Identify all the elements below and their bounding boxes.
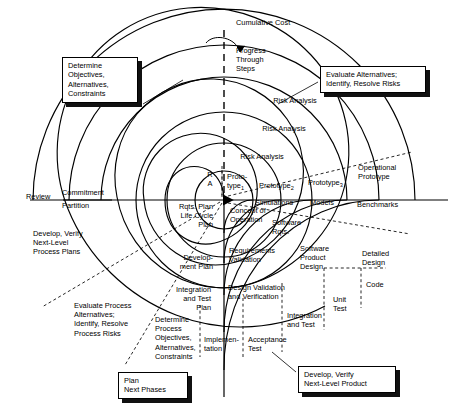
label-prototype-1-sub: 1: [241, 185, 244, 191]
label-evaluate-process-alternatives: Evaluate Process Alternatives; Identify,…: [74, 301, 158, 338]
label-detailed-design: Detailed Design: [362, 249, 412, 267]
label-operational-prototype: Operational Prototype: [358, 163, 420, 181]
label-rqts-plan: Rqts. Plan Life Cycle Plan: [143, 202, 213, 230]
axis-label-partition: Partition: [62, 201, 89, 210]
label-models: Models: [310, 198, 356, 207]
label-integration-and-test: Integration and Test: [287, 311, 337, 329]
label-prototype-3-sub: 3: [340, 182, 343, 188]
label-software-product-design: Software Product Design: [300, 244, 350, 272]
label-develop-verify-process-plans: Develop, Verify Next-Level Process Plans: [33, 229, 123, 257]
axis-label-commitment: Commitment: [62, 188, 104, 197]
label-acceptance-test: Acceptance Test: [248, 335, 298, 353]
label-code: Code: [366, 280, 400, 289]
label-development-plan: Develop- ment Plan: [143, 253, 213, 271]
callout-text: Develop, Verify Next-Level Product: [298, 366, 396, 393]
callout-text: Plan Next Phases: [118, 372, 188, 399]
label-prototype-3-text: Prototype: [308, 178, 340, 187]
label-unit-test: Unit Test: [333, 295, 363, 313]
label-design-validation: Design Validation and Verification: [228, 283, 314, 301]
label-prototype-2-text: Prototype: [259, 181, 291, 190]
label-benchmarks: Benchmarks: [357, 200, 417, 209]
callout-text: Evaluate Alternatives; Identify, Resolve…: [320, 66, 426, 93]
label-risk-analysis-1: R A: [204, 170, 216, 188]
label-prototype-1: Proto- type1: [227, 172, 259, 191]
callout-plan-next-phases: Plan Next Phases: [118, 372, 188, 399]
label-software-rqts: Software Rqts.: [272, 218, 320, 236]
label-risk-analysis-3: Risk Analysis: [253, 124, 315, 133]
callout-determine-objectives: Determine Objectives, Alternatives, Cons…: [62, 57, 138, 103]
label-requirements-validation: Requirements Validation: [229, 246, 299, 264]
axis-label-cumulative-cost: Cumulative Cost: [236, 18, 290, 27]
axis-label-progress-through-steps: Progress Through Steps: [236, 46, 266, 74]
callout-develop-verify-product: Develop, Verify Next-Level Product: [298, 366, 396, 393]
label-risk-analysis-2: Risk Analysis: [231, 152, 293, 161]
label-prototype-2-sub: 2: [291, 185, 294, 191]
progress-arrow: [206, 37, 239, 49]
label-prototype-1-text: Proto- type: [227, 172, 247, 190]
callout-text: Determine Objectives, Alternatives, Cons…: [62, 57, 138, 103]
label-risk-analysis-4: Risk Analysis: [264, 96, 326, 105]
callout-evaluate-alternatives: Evaluate Alternatives; Identify, Resolve…: [320, 66, 426, 93]
axis-label-review: Review: [26, 192, 50, 201]
spiral-model-diagram: Cumulative Cost Progress Through Steps R…: [0, 0, 454, 418]
label-determine-process-objectives: Determine Process Objectives, Alternativ…: [155, 315, 215, 361]
